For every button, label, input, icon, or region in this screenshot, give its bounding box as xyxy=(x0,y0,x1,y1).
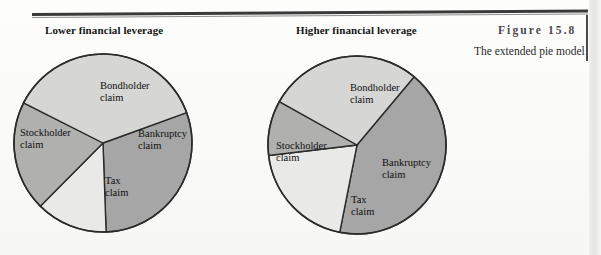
pie-svg-lower xyxy=(10,50,200,240)
pie-slices-lower xyxy=(14,54,192,232)
figure-number: Figure 15.8 xyxy=(498,24,576,36)
pie-svg-higher xyxy=(262,52,452,242)
pie-chart-higher-leverage: Bondholder claim Stockholder claim Bankr… xyxy=(262,52,452,242)
figure-caption: The extended pie model xyxy=(474,45,585,57)
pie-slices-higher xyxy=(268,56,446,234)
pie-chart-lower-leverage: Bondholder claim Stockholder claim Bankr… xyxy=(10,50,200,240)
chart-title-lower-leverage: Lower financial leverage xyxy=(45,24,163,36)
chart-title-higher-leverage: Higher financial leverage xyxy=(296,24,417,36)
figure-side-rule xyxy=(586,15,588,61)
page-edge-shadow xyxy=(589,0,601,255)
